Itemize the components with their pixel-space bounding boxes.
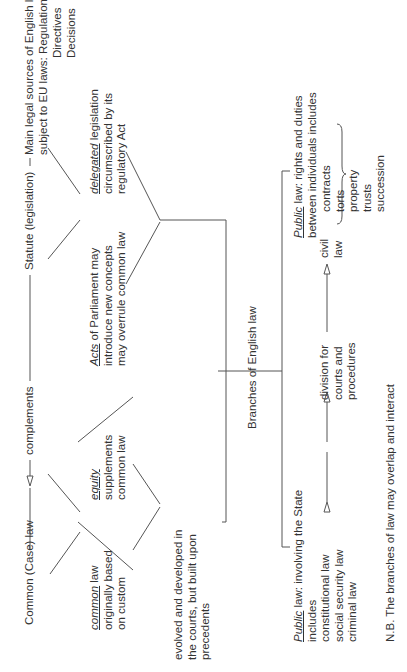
public-item: constitutional law (319, 554, 331, 642)
eu-decisions-label: Decisions (65, 8, 79, 58)
equity-box: equity supplements common law (88, 435, 129, 500)
delegated-box: delegated legislation circumscribed by i… (88, 89, 129, 194)
common-term: common (88, 586, 100, 630)
equity-line3: common law (115, 435, 127, 500)
eu-directives-label: Directives (51, 8, 65, 58)
private-item: property (347, 170, 359, 212)
evolved-line1: evolved and developed in (172, 530, 184, 660)
law-branches-diagram: Common (Case) law complements Statute (l… (0, 0, 407, 672)
public-term: Public (292, 611, 304, 642)
public-law-box: Public law: involving the State includes… (292, 490, 360, 642)
division-line2: courts and (332, 346, 344, 400)
division-label: division for courts and procedures (318, 342, 359, 400)
private-item: torts (334, 190, 346, 212)
main-sources-line1: Main legal sources of English law (23, 0, 37, 155)
delegated-line3: regulatory Act (115, 124, 127, 194)
acts-line3: may overrule common law (115, 232, 127, 366)
common-line2: originally based (102, 550, 114, 630)
acts-line1: of Parliament may (88, 248, 100, 344)
complements-label: complements (23, 387, 37, 455)
private-line2: between individuals includes (306, 92, 318, 238)
private-item: trusts (361, 184, 373, 212)
private-law-box: Public law: rights and duties between in… (292, 92, 319, 238)
evolved-box: evolved and developed in the courts, but… (172, 530, 213, 660)
delegated-line2: circumscribed by its (102, 93, 114, 194)
division-line3: procedures (345, 342, 357, 400)
equity-line2: supplements (102, 435, 114, 500)
acts-term: Acts (88, 344, 100, 366)
common-case-law-label: Common (Case) law (23, 520, 37, 625)
public-line2: includes (306, 600, 318, 642)
common-line1: law (88, 565, 100, 585)
private-law-items: contracts torts property trusts successi… (320, 155, 388, 212)
evolved-line3: precedents (199, 603, 211, 660)
footnote: N.B. The branches of law may overlap and… (384, 384, 398, 642)
evolved-line2: the courts, but built upon (186, 534, 198, 660)
delegated-line1: legislation (88, 89, 100, 143)
private-term: Public (292, 207, 304, 238)
branches-label: Branches of English law (246, 306, 260, 429)
main-sources-line2: subject to EU laws: Regulations (37, 0, 51, 155)
statute-label: Statute (legislation) (23, 172, 37, 270)
private-line1: law: rights and duties (292, 95, 304, 206)
equity-term: equity (88, 469, 100, 500)
civil-law-label: civil law (318, 239, 345, 258)
division-line1: division for (318, 345, 330, 400)
public-item: criminal law (346, 582, 358, 642)
private-item: succession (374, 155, 386, 212)
public-line1: law: involving the State (292, 490, 304, 611)
acts-box: Acts of Parliament may introduce new con… (88, 232, 129, 366)
private-item: contracts (320, 165, 332, 212)
public-item: social security law (333, 549, 345, 642)
common-law-box: common law originally based on custom (88, 550, 129, 630)
civil-line1: civil (318, 239, 330, 258)
common-line3: on custom (115, 577, 127, 630)
civil-line2: law (332, 241, 344, 258)
delegated-term: delegated (88, 143, 100, 194)
acts-line2: introduce new concepts (102, 245, 114, 366)
